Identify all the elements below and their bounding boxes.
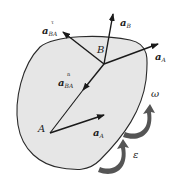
label-a-BA-n-sub: BA bbox=[64, 82, 73, 89]
point-A-label: A bbox=[38, 124, 45, 134]
omega-label: ω bbox=[151, 89, 159, 99]
diagram-canvas: B A aB aA τ aBA n aBA aA ω ε bbox=[0, 0, 175, 186]
rigid-body-shape bbox=[17, 36, 147, 169]
label-a-BA-tau-sup: τ bbox=[51, 20, 54, 25]
label-a-BA-n-sup: n bbox=[67, 72, 70, 77]
label-a-BA-tau: τ aBA bbox=[42, 26, 57, 37]
label-a-BA-tau-sub: BA bbox=[48, 30, 57, 37]
point-B-label: B bbox=[97, 45, 104, 55]
label-a-A-at-A-sub: A bbox=[99, 132, 103, 139]
label-a-A-at-B: aA bbox=[155, 52, 166, 63]
diagram-svg bbox=[0, 0, 175, 186]
label-a-BA-n: n aBA bbox=[58, 78, 73, 89]
label-a-B-sub: B bbox=[126, 22, 130, 29]
label-a-A-at-B-sub: A bbox=[161, 56, 165, 63]
label-a-B: aB bbox=[120, 18, 131, 29]
label-a-A-at-A: aA bbox=[93, 128, 104, 139]
epsilon-label: ε bbox=[133, 150, 138, 160]
